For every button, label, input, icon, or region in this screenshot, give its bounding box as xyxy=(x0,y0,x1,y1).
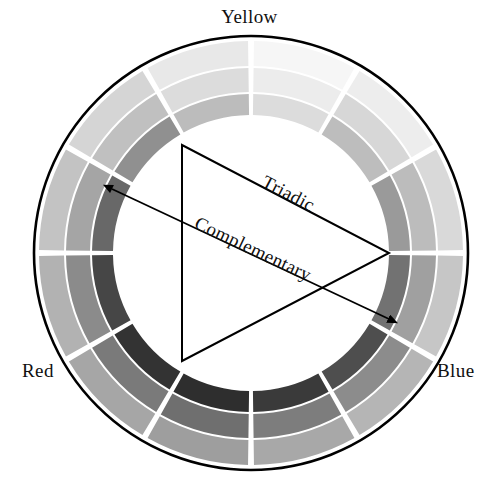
primary-label-red: Red xyxy=(22,360,54,382)
primary-label-yellow: Yellow xyxy=(0,6,499,28)
color-wheel-diagram: Triadic Complementary Yellow Red Blue xyxy=(0,0,499,493)
primary-label-blue: Blue xyxy=(437,360,475,382)
triadic-label: Triadic xyxy=(259,171,319,216)
complementary-label: Complementary xyxy=(192,212,316,285)
color-wheel-svg: Triadic Complementary xyxy=(0,0,499,493)
